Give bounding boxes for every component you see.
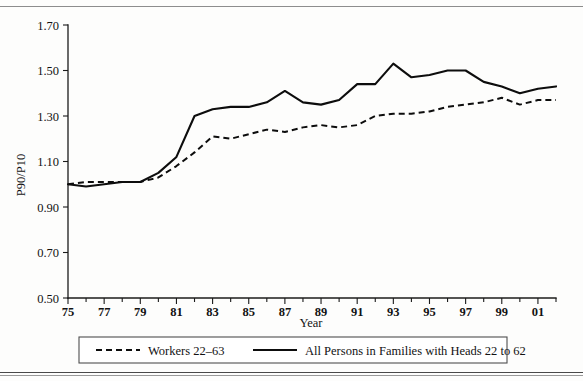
page-rule-top	[0, 6, 583, 7]
x-axis-tick-label: 83	[206, 305, 219, 319]
legend-label: All Persons in Families with Heads 22 to…	[305, 344, 526, 358]
legend-label: Workers 22–63	[148, 344, 224, 358]
x-axis-tick-label: 97	[459, 305, 472, 319]
x-axis-tick-label: 91	[351, 305, 364, 319]
figure-panel: 0.500.700.901.101.301.501.70 75777981838…	[0, 0, 583, 381]
y-axis-tick-label: 1.70	[37, 19, 59, 33]
x-axis-tick-label: 87	[279, 305, 292, 319]
x-axis-title: Year	[299, 316, 323, 330]
y-axis-tick-label: 1.30	[37, 110, 59, 124]
chart-legend: Workers 22–63All Persons in Families wit…	[79, 337, 526, 363]
chart-series	[68, 64, 556, 187]
x-axis-tick-label: 01	[532, 305, 545, 319]
x-axis-tick-label: 95	[423, 305, 436, 319]
x-axis-tick-label: 81	[170, 305, 183, 319]
series-line-2	[68, 64, 556, 187]
x-axis-tick-label: 85	[242, 305, 255, 319]
line-chart: 0.500.700.901.101.301.501.70 75777981838…	[0, 0, 583, 381]
x-axis-tick-label: 79	[134, 305, 147, 319]
x-axis-tick-label: 75	[62, 305, 75, 319]
y-axis-tick-label: 0.50	[37, 292, 59, 306]
y-axis: 0.500.700.901.101.301.501.70	[37, 19, 68, 306]
y-axis-title: P90/P10	[14, 154, 28, 196]
x-axis-tick-label: 93	[387, 305, 400, 319]
x-axis-tick-label: 77	[98, 305, 111, 319]
y-axis-tick-label: 1.50	[37, 64, 59, 78]
y-axis-tick-label: 1.10	[37, 155, 59, 169]
x-axis-tick-label: 99	[496, 305, 509, 319]
y-axis-tick-label: 0.70	[37, 246, 59, 260]
page-rule-bottom	[0, 372, 583, 373]
page-rule-bottom-secondary	[0, 375, 583, 376]
y-axis-tick-label: 0.90	[37, 201, 59, 215]
series-line-1	[68, 98, 556, 184]
